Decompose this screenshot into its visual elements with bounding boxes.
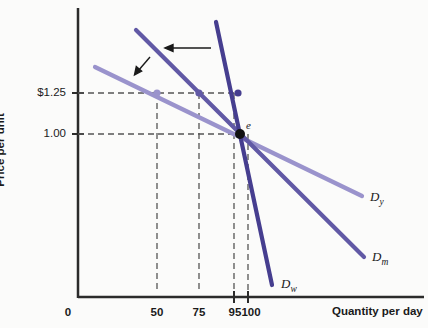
x-tick-label-95: 95 (229, 307, 242, 319)
curve-label-dm-sub: m (381, 257, 388, 267)
demand-curve-figure: Price per unit $1.25 1.00 0 50 75 95 100… (0, 0, 428, 328)
equilibrium-dot (235, 129, 245, 139)
curve-label-dm-main: D (372, 249, 381, 264)
point-marker-dm-125 (195, 89, 202, 96)
point-marker-dy-125 (153, 89, 160, 96)
point-marker-dw-125 (234, 89, 241, 96)
curve-label-dm: Dm (372, 250, 388, 267)
curve-label-dy: Dy (370, 190, 384, 207)
curve-label-dy-main: D (370, 189, 379, 204)
y-tick-label-100: 1.00 (24, 128, 66, 140)
curve-label-dy-sub: y (379, 197, 383, 207)
x-tick-label-50: 50 (151, 307, 164, 319)
x-origin-label: 0 (65, 307, 71, 319)
x-axis-title: Quantity per day (332, 306, 423, 318)
x-tick-label-100: 100 (241, 307, 260, 319)
y-axis-title: Price per unit (0, 90, 6, 210)
equilibrium-label: e (246, 120, 251, 131)
y-tick-label-125: $1.25 (24, 87, 66, 99)
plot-canvas (0, 0, 428, 328)
canvas-background (0, 0, 428, 328)
curve-label-dw: Dw (281, 277, 297, 294)
x-tick-label-75: 75 (193, 307, 206, 319)
curve-label-dw-main: D (281, 276, 290, 291)
curve-label-dw-sub: w (290, 284, 296, 294)
